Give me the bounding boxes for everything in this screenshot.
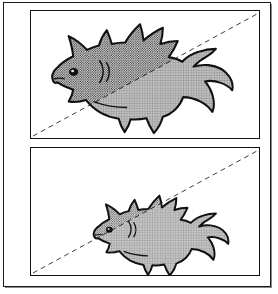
- panel-bottom: [30, 147, 260, 276]
- panel-top: [30, 10, 260, 139]
- fish-mouth-line: [95, 235, 103, 236]
- fish-eye-icon: [106, 227, 113, 233]
- fish-eye-icon: [69, 68, 78, 76]
- fish-eye-highlight-icon: [108, 228, 110, 230]
- fish-eye-highlight-icon: [71, 70, 74, 72]
- figure-root: [0, 0, 278, 294]
- panel-top-canvas: [31, 11, 259, 138]
- panel-bottom-canvas: [31, 148, 259, 275]
